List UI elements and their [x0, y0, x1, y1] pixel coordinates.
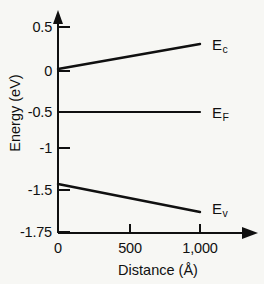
y-tick-label-0: 0.5	[6, 19, 52, 35]
series-line-ec	[58, 44, 200, 69]
y-axis-title-wrapper: Energy (eV)	[6, 58, 24, 168]
y-axis-arrow-icon	[53, 10, 63, 24]
x-axis-arrow-icon	[242, 227, 258, 239]
y-tick-label-4: -1.5	[0, 182, 52, 198]
x-tick-label-0: 0	[44, 240, 72, 256]
y-axis	[53, 10, 63, 233]
series-label-ev-sub: v	[223, 207, 228, 219]
x-tick-label-1: 500	[108, 240, 152, 256]
x-axis-ticks	[58, 224, 200, 233]
x-tick-label-2: 1,000	[174, 240, 226, 256]
series-label-ev: Ev	[212, 200, 227, 217]
series-label-ef: EF	[212, 104, 228, 121]
y-tick-label-5: -1.75	[0, 224, 52, 240]
x-axis-title-wrapper: Distance (Å)	[58, 261, 258, 279]
series-label-ef-base: E	[212, 104, 222, 121]
series-line-ev	[58, 184, 200, 212]
series-label-ec-base: E	[212, 36, 222, 53]
series-label-ec-sub: c	[223, 43, 228, 55]
x-axis	[58, 227, 258, 239]
y-axis-title: Energy (eV)	[7, 74, 23, 151]
x-axis-title: Distance (Å)	[118, 262, 198, 278]
series-label-ec: Ec	[212, 36, 227, 53]
series-label-ef-sub: F	[223, 111, 229, 123]
series-label-ev-base: E	[212, 200, 222, 217]
energy-band-diagram-figure: 0.5 0 -0.5 -1 -1.5 -1.75 0 500 1,000 Ene…	[0, 0, 264, 284]
y-axis-ticks	[58, 27, 70, 232]
